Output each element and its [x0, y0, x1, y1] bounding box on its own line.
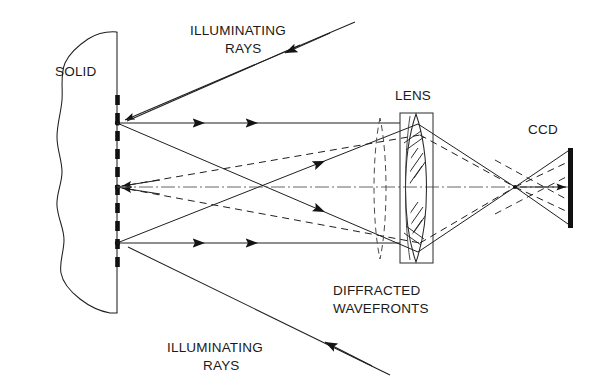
label-illuminating-rays-top-line1: ILLUMINATING [190, 23, 286, 38]
ray-lens-bottom-dashed-to-focus [420, 187, 515, 243]
optics-diagram-figure: SOLID ILLUMINATING RAYS LENS CCD DIFFRAC… [0, 0, 594, 388]
diffracted-wavefront-rays-group [117, 135, 572, 243]
label-illuminating-rays-bottom-line1: ILLUMINATING [167, 340, 263, 355]
illuminating-ray-bottom-arrow [325, 342, 372, 366]
label-ccd: CCD [528, 122, 558, 137]
ray-focus-to-ccd-bottom [515, 187, 568, 224]
label-diffracted-wavefronts-line2: WAVEFRONTS [333, 301, 429, 316]
ccd-detector-bar [568, 148, 573, 228]
optics-schematic-svg: SOLID ILLUMINATING RAYS LENS CCD DIFFRAC… [0, 0, 594, 388]
diffracted-ray-up-backarrow [122, 180, 160, 186]
ray-focus-to-ccd-top-dashed [515, 162, 568, 187]
ray-precross-upper [495, 160, 568, 200]
diffracted-ray-down [117, 187, 420, 243]
lens-element-rear [406, 114, 427, 262]
illuminating-ray-top-segment2 [127, 45, 300, 121]
label-lens: LENS [395, 88, 431, 103]
label-solid: SOLID [55, 64, 97, 79]
diffracted-ray-down-backarrow [122, 188, 160, 194]
image-forming-rays-group [418, 124, 568, 252]
label-diffracted-wavefronts-line1: DIFFRACTED [333, 283, 421, 298]
label-illuminating-rays-top-line2: RAYS [225, 41, 262, 56]
ray-focus-to-ccd-bottom-dashed [515, 187, 568, 212]
ray-lens-top-dashed-to-focus [420, 135, 515, 187]
label-illuminating-rays-bottom-line2: RAYS [203, 358, 240, 373]
focus-point [513, 185, 517, 189]
illuminating-ray-top-arrow [285, 33, 330, 53]
ray-focus-to-ccd-top [515, 151, 568, 187]
ccd-detector-group [568, 148, 573, 228]
